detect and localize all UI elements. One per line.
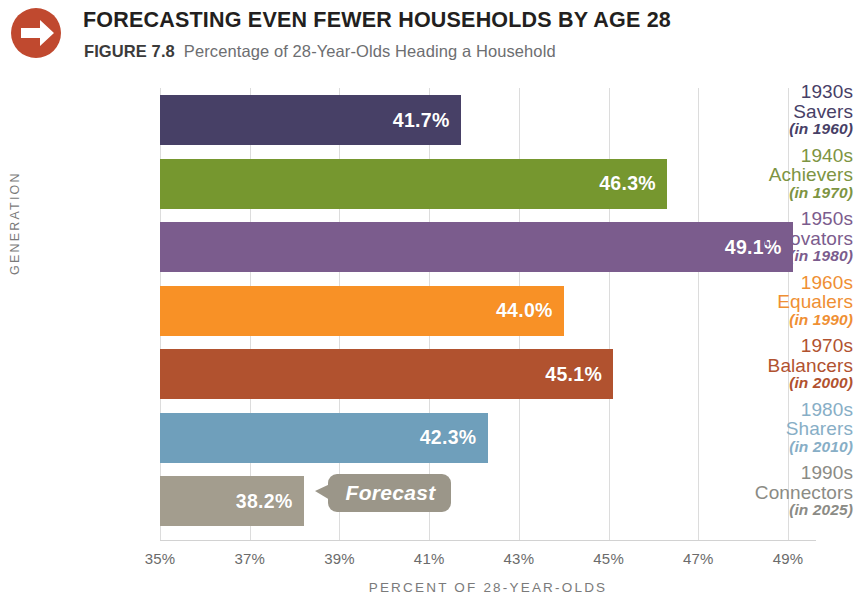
arrow-right-circle-icon — [10, 7, 62, 59]
category-year: (in 2010) — [713, 439, 853, 455]
gridline — [609, 88, 610, 540]
x-tick-label: 39% — [309, 550, 369, 567]
category-label: 1940sAchievers(in 1970) — [713, 146, 863, 201]
x-tick-label: 37% — [220, 550, 280, 567]
bar: 38.2% — [160, 476, 304, 526]
x-tick-label: 41% — [399, 550, 459, 567]
figure-number: FIGURE 7.8 — [84, 42, 175, 60]
bar: 42.3% — [160, 413, 488, 463]
category-year: (in 1980) — [713, 248, 853, 264]
figure-header: FORECASTING EVEN FEWER HOUSEHOLDS BY AGE… — [0, 0, 863, 80]
category-name: Equalers — [713, 292, 853, 312]
category-label: 1930sSavers(in 1960) — [713, 82, 863, 137]
y-axis-title: GENERATION — [8, 171, 22, 275]
bar-value-label: 45.1% — [545, 363, 602, 386]
category-decade: 1990s — [713, 463, 853, 483]
x-tick-label: 47% — [668, 550, 728, 567]
bar: 46.3% — [160, 159, 667, 209]
bar: 49.1% — [160, 222, 793, 272]
category-name: Balancers — [713, 356, 853, 376]
gridline — [698, 88, 699, 540]
forecast-label: Forecast — [346, 481, 436, 505]
category-year: (in 1990) — [713, 312, 853, 328]
category-decade: 1980s — [713, 400, 853, 420]
category-decade: 1930s — [713, 82, 853, 102]
bar-value-label: 38.2% — [236, 490, 293, 513]
callout-pointer-icon — [315, 484, 330, 500]
x-axis-title: PERCENT OF 28-YEAR-OLDS — [160, 580, 816, 595]
category-name: Savers — [713, 102, 853, 122]
x-tick-label: 35% — [130, 550, 190, 567]
bar-chart: GENERATION 41.7%46.3%49.1%44.0%45.1%42.3… — [0, 80, 863, 605]
category-label: 1970sBalancers(in 2000) — [713, 336, 863, 391]
bar: 41.7% — [160, 95, 461, 145]
category-name: Innovators — [713, 229, 853, 249]
category-name: Sharers — [713, 419, 853, 439]
x-tick-label: 45% — [579, 550, 639, 567]
bar-value-label: 41.7% — [393, 109, 450, 132]
category-label: 1950sInnovators(in 1980) — [713, 209, 863, 264]
bar-value-label: 46.3% — [599, 172, 656, 195]
category-year: (in 2000) — [713, 375, 853, 391]
category-name: Connectors — [713, 483, 853, 503]
bar-value-label: 42.3% — [420, 426, 477, 449]
forecast-callout: Forecast — [328, 474, 452, 512]
category-decade: 1950s — [713, 209, 853, 229]
page-title: FORECASTING EVEN FEWER HOUSEHOLDS BY AGE… — [83, 8, 671, 33]
bar: 45.1% — [160, 349, 613, 399]
bar: 44.0% — [160, 286, 564, 336]
figure-caption: FIGURE 7.8Percentage of 28-Year-Olds Hea… — [84, 42, 556, 61]
x-tick-label: 49% — [758, 550, 818, 567]
x-tick-label: 43% — [489, 550, 549, 567]
category-label: 1990sConnectors(in 2025) — [713, 463, 863, 518]
category-year: (in 1960) — [713, 121, 853, 137]
category-decade: 1940s — [713, 146, 853, 166]
category-year: (in 1970) — [713, 185, 853, 201]
category-year: (in 2025) — [713, 502, 853, 518]
category-decade: 1970s — [713, 336, 853, 356]
category-decade: 1960s — [713, 273, 853, 293]
category-name: Achievers — [713, 165, 853, 185]
category-label: 1980sSharers(in 2010) — [713, 400, 863, 455]
x-axis-line — [160, 540, 816, 541]
bar-value-label: 44.0% — [496, 299, 553, 322]
figure-subtitle: Percentage of 28-Year-Olds Heading a Hou… — [184, 42, 556, 60]
category-label: 1960sEqualers(in 1990) — [713, 273, 863, 328]
